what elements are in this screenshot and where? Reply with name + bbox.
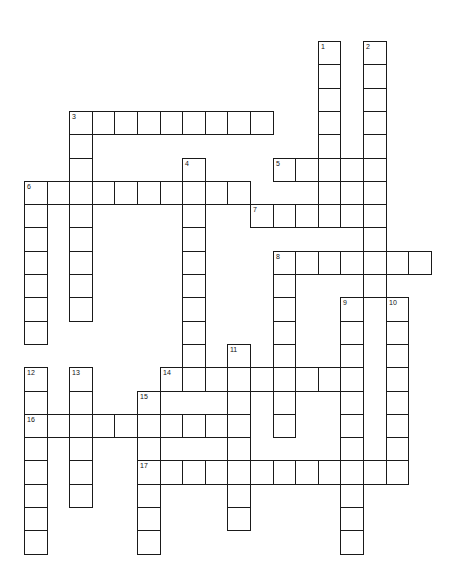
crossword-cell[interactable] [250, 111, 274, 135]
crossword-cell[interactable] [363, 181, 387, 205]
crossword-cell[interactable] [363, 251, 387, 275]
crossword-cell[interactable] [24, 227, 48, 252]
crossword-cell[interactable] [340, 344, 364, 368]
crossword-cell[interactable] [69, 251, 93, 275]
crossword-cell[interactable] [227, 414, 251, 438]
crossword-cell[interactable] [137, 437, 161, 461]
crossword-cell[interactable] [273, 391, 296, 415]
crossword-cell[interactable] [47, 181, 70, 205]
crossword-cell[interactable] [273, 460, 296, 485]
crossword-cell[interactable]: 4 [182, 158, 206, 182]
crossword-cell[interactable] [386, 321, 409, 345]
crossword-cell[interactable] [363, 64, 387, 89]
crossword-cell[interactable] [69, 297, 93, 322]
crossword-cell[interactable]: 8 [273, 251, 296, 275]
crossword-cell[interactable] [273, 344, 296, 368]
crossword-cell[interactable] [273, 367, 296, 392]
crossword-cell[interactable]: 13 [69, 367, 93, 392]
crossword-cell[interactable] [137, 507, 161, 531]
crossword-cell[interactable] [363, 460, 387, 485]
crossword-cell[interactable] [69, 204, 93, 228]
crossword-cell[interactable] [205, 367, 228, 392]
crossword-cell[interactable] [363, 158, 387, 182]
crossword-cell[interactable] [205, 111, 228, 135]
crossword-cell[interactable]: 17 [137, 460, 161, 485]
crossword-cell[interactable] [295, 251, 319, 275]
crossword-cell[interactable] [182, 321, 206, 345]
crossword-cell[interactable] [408, 251, 432, 275]
crossword-cell[interactable] [182, 251, 206, 275]
crossword-cell[interactable] [160, 460, 183, 485]
crossword-cell[interactable] [205, 181, 228, 205]
crossword-cell[interactable] [182, 460, 206, 485]
crossword-cell[interactable] [295, 460, 319, 485]
crossword-cell[interactable] [318, 64, 341, 89]
crossword-cell[interactable] [24, 251, 48, 275]
crossword-cell[interactable] [340, 158, 364, 182]
crossword-cell[interactable] [24, 204, 48, 228]
crossword-cell[interactable] [227, 460, 251, 485]
crossword-cell[interactable] [318, 460, 341, 485]
crossword-cell[interactable] [137, 530, 161, 555]
crossword-cell[interactable] [363, 88, 387, 112]
crossword-cell[interactable] [318, 134, 341, 159]
crossword-cell[interactable] [273, 297, 296, 322]
crossword-cell[interactable] [318, 88, 341, 112]
crossword-cell[interactable] [182, 274, 206, 298]
crossword-cell[interactable] [363, 111, 387, 135]
crossword-cell[interactable] [340, 460, 364, 485]
crossword-cell[interactable] [386, 251, 409, 275]
crossword-cell[interactable] [69, 158, 93, 182]
crossword-cell[interactable] [340, 530, 364, 555]
crossword-cell[interactable] [160, 414, 183, 438]
crossword-cell[interactable] [182, 367, 206, 392]
crossword-cell[interactable] [114, 111, 138, 135]
crossword-cell[interactable] [386, 391, 409, 415]
crossword-cell[interactable]: 5 [273, 158, 296, 182]
crossword-cell[interactable]: 2 [363, 41, 387, 65]
crossword-cell[interactable] [386, 460, 409, 485]
crossword-cell[interactable] [182, 344, 206, 368]
crossword-cell[interactable] [340, 204, 364, 228]
crossword-cell[interactable] [386, 437, 409, 461]
crossword-cell[interactable] [92, 414, 115, 438]
crossword-cell[interactable] [114, 181, 138, 205]
crossword-cell[interactable] [182, 414, 206, 438]
crossword-cell[interactable] [24, 460, 48, 485]
crossword-cell[interactable] [227, 507, 251, 531]
crossword-cell[interactable] [92, 181, 115, 205]
crossword-cell[interactable] [24, 437, 48, 461]
crossword-cell[interactable] [182, 111, 206, 135]
crossword-cell[interactable] [227, 181, 251, 205]
crossword-cell[interactable] [340, 251, 364, 275]
crossword-cell[interactable] [340, 484, 364, 508]
crossword-cell[interactable] [114, 414, 138, 438]
crossword-cell[interactable] [182, 204, 206, 228]
crossword-cell[interactable] [340, 507, 364, 531]
crossword-cell[interactable] [318, 204, 341, 228]
crossword-cell[interactable] [24, 484, 48, 508]
crossword-cell[interactable] [182, 297, 206, 322]
crossword-cell[interactable] [24, 321, 48, 345]
crossword-cell[interactable] [386, 414, 409, 438]
crossword-cell[interactable] [160, 181, 183, 205]
crossword-cell[interactable] [160, 111, 183, 135]
crossword-cell[interactable] [340, 367, 364, 392]
crossword-cell[interactable] [69, 391, 93, 415]
crossword-cell[interactable] [69, 437, 93, 461]
crossword-cell[interactable] [69, 134, 93, 159]
crossword-cell[interactable]: 12 [24, 367, 48, 392]
crossword-cell[interactable] [24, 297, 48, 322]
crossword-cell[interactable] [24, 507, 48, 531]
crossword-cell[interactable] [340, 181, 364, 205]
crossword-cell[interactable] [340, 321, 364, 345]
crossword-cell[interactable] [340, 414, 364, 438]
crossword-cell[interactable] [227, 437, 251, 461]
crossword-cell[interactable] [340, 437, 364, 461]
crossword-cell[interactable] [92, 111, 115, 135]
crossword-cell[interactable] [69, 414, 93, 438]
crossword-cell[interactable] [250, 367, 274, 392]
crossword-cell[interactable] [318, 251, 341, 275]
crossword-cell[interactable] [137, 181, 161, 205]
crossword-cell[interactable] [69, 274, 93, 298]
